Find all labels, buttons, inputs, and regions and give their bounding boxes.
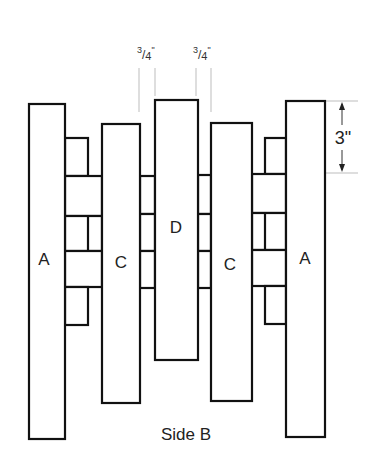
board-a-left — [29, 104, 65, 439]
spacer-block — [65, 251, 102, 287]
diagram-caption: Side B — [161, 426, 211, 443]
spacer-block — [252, 213, 286, 250]
diagram-drawing — [0, 0, 369, 473]
spacer-block — [252, 250, 286, 286]
board-a-right — [286, 101, 325, 437]
board-label-c-right: C — [224, 256, 236, 273]
spacer-block — [65, 176, 102, 216]
spacer-block — [140, 176, 155, 214]
spacer-block — [198, 214, 211, 251]
gap-dimension-right: 3/4" — [193, 46, 211, 62]
block-height-dimension: 3" — [335, 127, 351, 149]
spacer-block — [140, 214, 155, 251]
spacer-block — [65, 138, 88, 176]
spacer-block — [140, 251, 155, 288]
spacer-block — [265, 138, 286, 174]
spacer-block — [65, 216, 102, 251]
board-label-c-left: C — [115, 254, 127, 271]
spacer-block — [252, 174, 286, 213]
spacer-block — [198, 251, 211, 288]
arrow-up-head-icon — [339, 102, 345, 110]
board-label-a-left: A — [38, 251, 49, 268]
gap-dimension-left: 3/4" — [137, 46, 155, 62]
spacer-block — [65, 287, 88, 325]
spacer-block — [265, 286, 286, 324]
spacer-block — [198, 175, 211, 214]
arrow-down-head-icon — [339, 164, 345, 172]
board-label-a-right: A — [299, 250, 310, 267]
board-label-d: D — [170, 219, 182, 236]
